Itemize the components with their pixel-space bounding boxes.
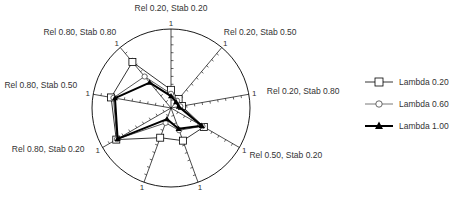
svg-text:1: 1 (252, 89, 257, 98)
legend-label: Lambda 0.20 (399, 77, 449, 87)
filled-triangle-marker-icon (365, 120, 393, 132)
svg-text:1: 1 (242, 146, 247, 155)
legend-label: Lambda 1.00 (399, 121, 449, 131)
legend-item-lambda-1-00: Lambda 1.00 (365, 115, 449, 137)
svg-text:Rel 0.20, Stab 0.80: Rel 0.20, Stab 0.80 (267, 86, 340, 96)
svg-text:1: 1 (169, 19, 174, 28)
radar-series (108, 59, 208, 145)
svg-text:1: 1 (198, 183, 203, 192)
svg-text:1: 1 (96, 146, 101, 155)
open-circle-marker-icon (365, 98, 393, 110)
svg-text:Rel 0.20, Stab 0.50: Rel 0.20, Stab 0.50 (224, 27, 297, 37)
svg-text:Rel 0.50, Stab 0.20: Rel 0.50, Stab 0.20 (249, 150, 322, 160)
legend-item-lambda-0-60: Lambda 0.60 (365, 93, 449, 115)
legend: Lambda 0.20 Lambda 0.60 Lambda 1.00 (365, 71, 449, 137)
svg-text:Rel 0.80, Stab 0.20: Rel 0.80, Stab 0.20 (12, 144, 85, 154)
svg-text:1: 1 (86, 89, 91, 98)
legend-item-lambda-0-20: Lambda 0.20 (365, 71, 449, 93)
svg-text:1: 1 (140, 183, 145, 192)
svg-text:1: 1 (223, 39, 228, 48)
svg-text:1: 1 (114, 39, 119, 48)
svg-text:Rel 0.80, Stab 0.80: Rel 0.80, Stab 0.80 (43, 27, 116, 37)
svg-text:Rel 0.80, Stab 0.50: Rel 0.80, Stab 0.50 (4, 80, 77, 90)
legend-label: Lambda 0.60 (399, 99, 449, 109)
open-square-marker-icon (365, 76, 393, 88)
svg-text:Rel 0.20, Stab 0.20: Rel 0.20, Stab 0.20 (135, 3, 208, 13)
